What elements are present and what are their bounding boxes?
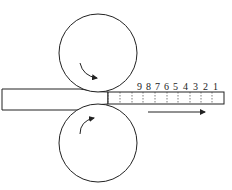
segment-label: 2 bbox=[203, 81, 208, 92]
segment-label: 8 bbox=[146, 81, 151, 92]
rolling-mill-diagram: 9 8 7 6 5 4 3 2 1 bbox=[0, 0, 232, 190]
segment-label: 7 bbox=[155, 81, 160, 92]
diagram-svg: 9 8 7 6 5 4 3 2 1 bbox=[0, 0, 232, 190]
segment-label: 6 bbox=[164, 81, 169, 92]
segment-label: 3 bbox=[193, 81, 198, 92]
segment-label: 1 bbox=[213, 81, 218, 92]
output-strip bbox=[108, 92, 224, 104]
segment-label: 5 bbox=[173, 81, 178, 92]
segment-label: 9 bbox=[137, 81, 142, 92]
segment-labels: 9 8 7 6 5 4 3 2 1 bbox=[137, 81, 218, 92]
lower-roll bbox=[59, 104, 137, 182]
upper-roll bbox=[59, 14, 137, 92]
segment-label: 4 bbox=[183, 81, 188, 92]
